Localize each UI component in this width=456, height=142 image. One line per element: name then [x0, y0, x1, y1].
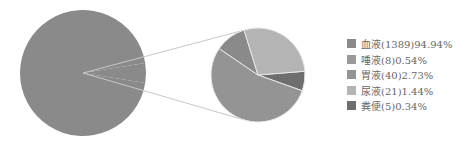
legend-swatch — [347, 70, 356, 79]
legend-swatch — [347, 55, 356, 64]
legend-swatch — [347, 39, 356, 48]
secondary-pie — [211, 28, 305, 122]
legend-label: 尿液(21)1.44% — [361, 83, 433, 98]
legend-swatch — [347, 86, 356, 95]
legend-swatch — [347, 101, 356, 110]
legend-item-urine: 尿液(21)1.44% — [347, 83, 452, 99]
legend: 血液(1389)94.94% 唾液(8)0.54% 胃液(40)2.73% 尿液… — [347, 36, 452, 114]
legend-item-feces: 粪便(5)0.34% — [347, 98, 452, 114]
legend-label: 粪便(5)0.34% — [361, 98, 427, 113]
legend-item-blood: 血液(1389)94.94% — [347, 36, 452, 52]
legend-label: 血液(1389)94.94% — [361, 36, 452, 51]
legend-label: 胃液(40)2.73% — [361, 67, 433, 82]
legend-item-gastric: 胃液(40)2.73% — [347, 67, 452, 83]
legend-item-saliva: 唾液(8)0.54% — [347, 52, 452, 68]
legend-label: 唾液(8)0.54% — [361, 52, 427, 67]
